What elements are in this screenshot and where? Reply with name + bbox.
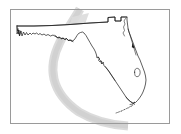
map-canvas (0, 0, 181, 134)
key-dot (124, 109, 125, 110)
lake-okeechobee (135, 68, 141, 76)
florida-map-figure (0, 0, 181, 134)
key-dot (134, 104, 135, 105)
key-dot (121, 111, 122, 112)
key-dot (128, 108, 129, 109)
key-dot (131, 106, 132, 107)
key-dot (117, 112, 118, 113)
